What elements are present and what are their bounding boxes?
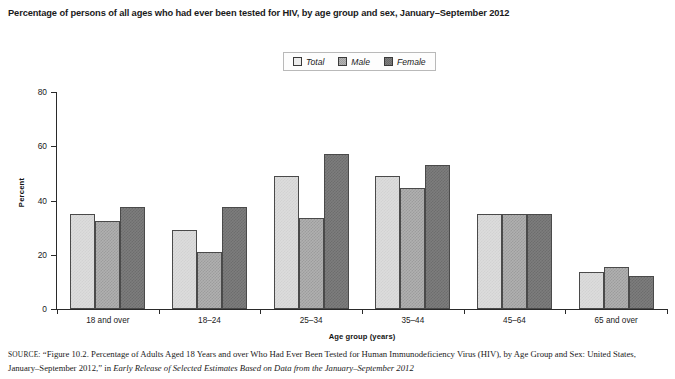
bar-total[interactable] (274, 176, 299, 309)
legend-label-female: Female (397, 57, 426, 67)
legend-swatch-total-icon (293, 57, 302, 66)
bar-total[interactable] (579, 272, 604, 309)
bar-total[interactable] (375, 176, 400, 309)
y-tick-label: 0 (21, 304, 47, 314)
bar-group (57, 92, 159, 309)
x-axis-title: Age group (years) (57, 332, 667, 341)
bar-group-bars (57, 92, 159, 309)
legend-label-total: Total (306, 57, 324, 67)
y-tick-label: 40 (21, 196, 47, 206)
y-tick-label: 80 (21, 87, 47, 97)
bar-group (565, 92, 667, 309)
chart-title: Percentage of persons of all ages who ha… (8, 7, 668, 19)
y-tick-label: 60 (21, 141, 47, 151)
x-tick-mark (260, 309, 261, 314)
legend-swatch-male-icon (338, 57, 347, 66)
bar-male[interactable] (604, 267, 629, 309)
bar-group-bars (464, 92, 566, 309)
bar-total[interactable] (477, 214, 502, 309)
bar-group-bars (362, 92, 464, 309)
bar-total[interactable] (70, 214, 95, 309)
legend-item-male[interactable]: Male (338, 57, 370, 67)
bar-male[interactable] (95, 221, 120, 309)
bar-total[interactable] (172, 230, 197, 309)
x-tick-mark (667, 309, 668, 314)
figure-container: Percentage of persons of all ages who ha… (0, 0, 675, 379)
legend-item-total[interactable]: Total (293, 57, 324, 67)
y-tick-mark (51, 92, 56, 93)
bar-female[interactable] (324, 154, 349, 309)
bar-male[interactable] (502, 214, 527, 309)
y-tick-label: 20 (21, 250, 47, 260)
bar-female[interactable] (425, 165, 450, 309)
bar-group (362, 92, 464, 309)
bar-group-bars (565, 92, 667, 309)
bar-group (260, 92, 362, 309)
legend-item-female[interactable]: Female (384, 57, 426, 67)
bar-group-bars (260, 92, 362, 309)
y-tick-mark (51, 201, 56, 202)
bar-female[interactable] (629, 276, 654, 309)
bar-male[interactable] (197, 252, 222, 309)
legend-swatch-female-icon (384, 57, 393, 66)
bar-male[interactable] (299, 218, 324, 309)
x-tick-mark (565, 309, 566, 314)
bar-group (464, 92, 566, 309)
source-note: SOURCE: “Figure 10.2. Percentage of Adul… (8, 348, 668, 374)
x-category-label: 65 and over (556, 316, 675, 325)
bar-female[interactable] (222, 207, 247, 309)
bar-group-bars (159, 92, 261, 309)
y-tick-mark (51, 146, 56, 147)
legend-label-male: Male (351, 57, 370, 67)
x-tick-mark (57, 309, 58, 314)
bar-female[interactable] (120, 207, 145, 309)
x-tick-mark (159, 309, 160, 314)
source-italic-title: Early Release of Selected Estimates Base… (113, 363, 414, 373)
y-tick-mark (51, 309, 56, 310)
x-tick-mark (362, 309, 363, 314)
bar-female[interactable] (527, 214, 552, 309)
y-tick-mark (51, 255, 56, 256)
bar-group (159, 92, 261, 309)
bar-male[interactable] (400, 188, 425, 309)
plot-area: Percent 020406080 Age group (years) 18 a… (57, 92, 667, 309)
x-tick-mark (464, 309, 465, 314)
chart-legend: Total Male Female (283, 52, 436, 71)
source-label: SOURCE: (8, 350, 41, 359)
